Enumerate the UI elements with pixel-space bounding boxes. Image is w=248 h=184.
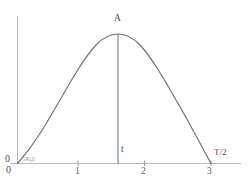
chart-figure: A t T/2 0 0 1 2 3 GRLO bbox=[0, 0, 248, 184]
x-tick-label-2: 2 bbox=[141, 167, 146, 177]
x-axis-origin-label: 0 bbox=[6, 165, 11, 175]
drop-line-label-t: t bbox=[121, 145, 124, 155]
curve-end-label-half-period: T/2 bbox=[214, 148, 227, 157]
y-axis-origin-label: 0 bbox=[5, 154, 10, 164]
x-tick-label-3: 3 bbox=[207, 167, 212, 177]
arch-curve bbox=[18, 34, 212, 164]
peak-label-A: A bbox=[114, 14, 121, 24]
chart-plot-area bbox=[0, 0, 248, 184]
origin-watermark-text: GRLO bbox=[22, 158, 36, 163]
x-tick-label-1: 1 bbox=[75, 167, 80, 177]
